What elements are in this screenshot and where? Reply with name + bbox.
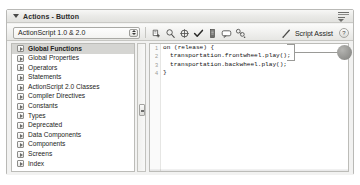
line-number: 4: [150, 69, 160, 77]
panel-titlebar[interactable]: Actions - Button: [7, 10, 353, 23]
sidebar-item-label: Global Functions: [28, 46, 82, 53]
book-icon: [17, 160, 24, 167]
code-line: }: [163, 69, 348, 77]
book-icon: [17, 122, 24, 129]
code-line: transportation.frontwheel.play();: [163, 52, 348, 60]
check-syntax-icon[interactable]: [193, 28, 204, 39]
tree-list: Global FunctionsGlobal PropertiesOperato…: [12, 44, 134, 171]
tree-scrollbar[interactable]: [137, 43, 146, 172]
page-title: Actions - Button: [23, 13, 79, 20]
sidebar-item-label: Statements: [28, 74, 61, 81]
code-line: transportation.backwheel.play();: [163, 61, 348, 69]
toolbar-icon-group: [151, 27, 246, 39]
line-number: 3: [150, 61, 160, 69]
sidebar-item-statements[interactable]: Statements: [12, 73, 134, 83]
triangle-down-icon[interactable]: [13, 14, 19, 18]
language-select[interactable]: ActionScript 1.0 & 2.0: [13, 27, 140, 39]
sidebar-item-compiler-directives[interactable]: Compiler Directives: [12, 92, 134, 102]
sidebar-item-global-properties[interactable]: Global Properties: [12, 54, 134, 64]
sidebar-item-data-components[interactable]: Data Components: [12, 130, 134, 140]
insert-target-icon[interactable]: [179, 28, 190, 39]
line-number-gutter: 1234: [150, 44, 161, 171]
book-icon: [17, 141, 24, 148]
sidebar-item-global-functions[interactable]: Global Functions: [12, 44, 134, 54]
sidebar-item-screens[interactable]: Screens: [12, 150, 134, 160]
sidebar-item-constants[interactable]: Constants: [12, 102, 134, 112]
sidebar-item-label: Components: [28, 141, 65, 148]
sidebar-item-components[interactable]: Components: [12, 140, 134, 150]
script-assist-label: Script Assist: [295, 30, 333, 37]
script-editor[interactable]: 1234 on (release) {transportation.frontw…: [149, 43, 349, 172]
sidebar-item-actionscript-2-0-classes[interactable]: ActionScript 2.0 Classes: [12, 82, 134, 92]
book-icon: [17, 74, 24, 81]
actions-panel-screenshot: Actions - Button ActionScript 1.0 & 2.0: [0, 0, 360, 185]
sidebar-item-label: Types: [28, 113, 46, 120]
book-icon: [17, 112, 24, 119]
callout-marker: [337, 45, 352, 60]
help-icon-label: ?: [342, 30, 345, 36]
sidebar-item-label: Data Components: [28, 132, 81, 139]
add-statement-icon[interactable]: [151, 28, 162, 39]
callout-leader-line: [295, 52, 338, 53]
show-code-hint-icon[interactable]: [221, 28, 232, 39]
language-select-value: ActionScript 1.0 & 2.0: [18, 29, 85, 36]
sidebar-item-label: Constants: [28, 103, 58, 110]
sidebar-item-operators[interactable]: Operators: [12, 63, 134, 73]
sidebar-item-types[interactable]: Types: [12, 111, 134, 121]
book-icon: [17, 45, 24, 52]
callout-bracket: [287, 44, 295, 61]
auto-format-icon[interactable]: [207, 28, 218, 39]
sidebar-item-label: Deprecated: [28, 122, 62, 129]
help-icon[interactable]: ?: [339, 28, 349, 38]
panel-body: Global FunctionsGlobal PropertiesOperato…: [7, 41, 353, 175]
book-icon: [17, 151, 24, 158]
sidebar-item-label: Operators: [28, 65, 57, 72]
wand-icon: [281, 28, 292, 39]
find-icon[interactable]: [165, 28, 176, 39]
sidebar-item-label: Compiler Directives: [28, 93, 85, 100]
actions-toolbar: ActionScript 1.0 & 2.0: [7, 24, 353, 41]
sidebar-item-label: Screens: [28, 151, 52, 158]
debug-options-icon[interactable]: [235, 28, 246, 39]
book-icon: [17, 64, 24, 71]
line-number: 2: [150, 52, 160, 60]
sidebar-item-label: ActionScript 2.0 Classes: [28, 84, 99, 91]
stepper-updown-icon[interactable]: [129, 29, 138, 38]
sidebar-item-label: Global Properties: [28, 55, 79, 62]
book-icon: [17, 55, 24, 62]
toolbar-divider-1: [145, 27, 146, 38]
code-content[interactable]: on (release) {transportation.frontwheel.…: [163, 44, 348, 78]
sidebar-item-deprecated[interactable]: Deprecated: [12, 121, 134, 131]
scroll-thumb-icon[interactable]: [139, 104, 145, 116]
line-number: 1: [150, 44, 160, 52]
actions-toolbox-tree[interactable]: Global FunctionsGlobal PropertiesOperato…: [11, 43, 135, 172]
panel-options-icon[interactable]: [338, 12, 349, 21]
editor-bottom-shadow: [150, 169, 348, 171]
book-icon: [17, 103, 24, 110]
sidebar-item-label: Index: [28, 161, 44, 168]
sidebar-item-index[interactable]: Index: [12, 159, 134, 169]
script-assist-button[interactable]: Script Assist: [281, 27, 333, 39]
book-icon: [17, 93, 24, 100]
book-icon: [17, 84, 24, 91]
book-icon: [17, 132, 24, 139]
actions-panel: Actions - Button ActionScript 1.0 & 2.0: [6, 9, 354, 175]
